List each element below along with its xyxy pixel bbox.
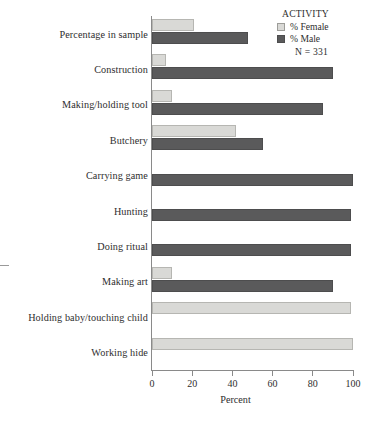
legend-item-male[interactable]: % Male bbox=[277, 33, 369, 46]
bar-male[interactable] bbox=[152, 209, 351, 221]
bar-female[interactable] bbox=[152, 54, 166, 66]
chart-row: Doing ritual bbox=[0, 228, 371, 263]
bar-male[interactable] bbox=[152, 32, 248, 44]
category-label: Making art bbox=[102, 276, 148, 287]
legend-label-female: % Female bbox=[290, 21, 329, 34]
category-label: Doing ritual bbox=[97, 241, 148, 252]
category-label: Butchery bbox=[110, 134, 148, 145]
chart-row: Holding baby/touching child bbox=[0, 299, 371, 334]
legend-sample-size: N = 331 bbox=[277, 46, 369, 59]
category-label: Percentage in sample bbox=[59, 28, 148, 39]
category-label: Holding baby/touching child bbox=[28, 311, 148, 322]
x-tick bbox=[353, 370, 354, 376]
bar-female[interactable] bbox=[152, 19, 194, 31]
category-label: Hunting bbox=[114, 205, 148, 216]
bar-male[interactable] bbox=[152, 174, 353, 186]
x-tick-label: 20 bbox=[187, 378, 197, 389]
category-label: Construction bbox=[94, 64, 148, 75]
bar-female[interactable] bbox=[152, 125, 236, 137]
bar-male[interactable] bbox=[152, 280, 333, 292]
x-tick bbox=[312, 370, 313, 376]
bar-female[interactable] bbox=[152, 267, 172, 279]
x-axis-title: Percent bbox=[0, 394, 371, 405]
x-tick bbox=[232, 370, 233, 376]
x-tick-label: 80 bbox=[308, 378, 318, 389]
chart-row: Butchery bbox=[0, 122, 371, 157]
x-tick bbox=[272, 370, 273, 376]
bar-female[interactable] bbox=[152, 90, 172, 102]
bar-male[interactable] bbox=[152, 67, 333, 79]
chart-row: Working hide bbox=[0, 335, 371, 370]
chart-row: Hunting bbox=[0, 193, 371, 228]
bar-male[interactable] bbox=[152, 244, 351, 256]
legend-swatch-female-icon bbox=[277, 23, 285, 31]
chart-row: Making art bbox=[0, 264, 371, 299]
category-label: Making/holding tool bbox=[62, 99, 148, 110]
legend-label-male: % Male bbox=[290, 33, 320, 46]
bar-male[interactable] bbox=[152, 103, 323, 115]
chart-row: Carrying game bbox=[0, 158, 371, 193]
category-label: Working hide bbox=[91, 347, 148, 358]
category-label: Carrying game bbox=[86, 170, 148, 181]
x-tick-label: 0 bbox=[150, 378, 155, 389]
x-tick-label: 100 bbox=[346, 378, 361, 389]
bar-chart: Percentage in sampleConstructionMaking/h… bbox=[0, 0, 371, 421]
y-axis-line bbox=[151, 16, 152, 370]
legend: ACTIVITY % Female % Male N = 331 bbox=[277, 8, 369, 58]
chart-row: Making/holding tool bbox=[0, 87, 371, 122]
x-tick bbox=[192, 370, 193, 376]
x-axis-line bbox=[151, 370, 353, 371]
x-tick-label: 60 bbox=[268, 378, 278, 389]
legend-title: ACTIVITY bbox=[277, 8, 369, 21]
bar-female[interactable] bbox=[152, 302, 351, 314]
x-axis-title-text: Percent bbox=[220, 394, 251, 405]
bar-female[interactable] bbox=[152, 338, 353, 350]
x-tick-label: 40 bbox=[227, 378, 237, 389]
bar-male[interactable] bbox=[152, 138, 263, 150]
legend-swatch-male-icon bbox=[277, 35, 285, 43]
legend-item-female[interactable]: % Female bbox=[277, 21, 369, 34]
x-tick bbox=[152, 370, 153, 376]
